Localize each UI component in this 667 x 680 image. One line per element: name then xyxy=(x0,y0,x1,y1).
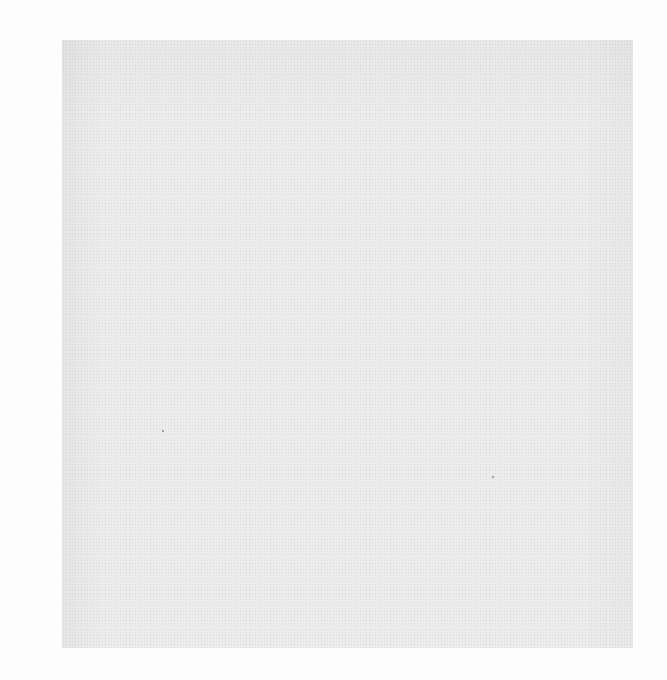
speck xyxy=(492,476,494,478)
blank-scanned-page xyxy=(62,40,633,648)
speck xyxy=(162,430,164,432)
